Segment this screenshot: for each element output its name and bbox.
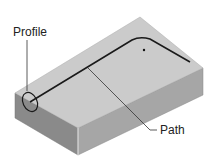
profile-label: Profile — [13, 26, 47, 38]
path-label: Path — [160, 124, 185, 136]
path-point-dot — [143, 49, 145, 51]
